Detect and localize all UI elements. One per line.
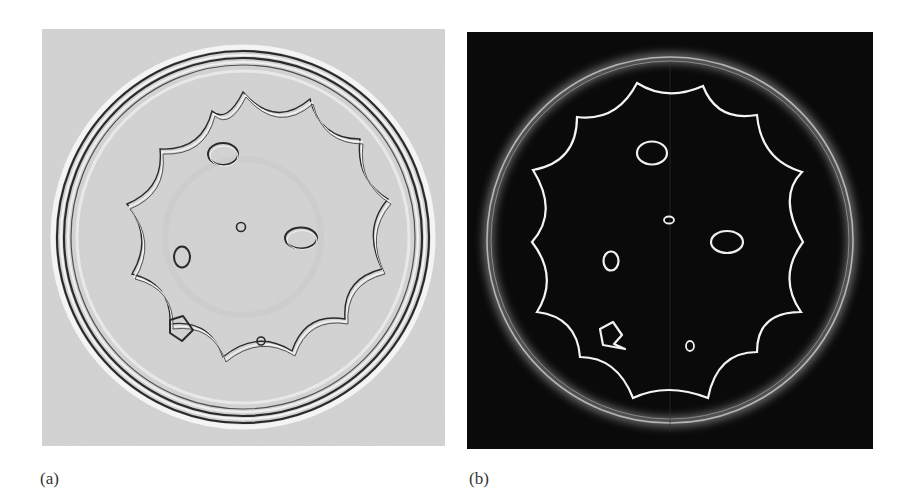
panel-a-image [42, 29, 445, 446]
panel-b-label: (b) [469, 469, 489, 489]
panel-a-label: (a) [40, 469, 59, 489]
edge-filtered-phantom-image [42, 29, 445, 446]
panel-b-image [467, 32, 873, 449]
edge-magnitude-phantom-image [467, 32, 873, 449]
